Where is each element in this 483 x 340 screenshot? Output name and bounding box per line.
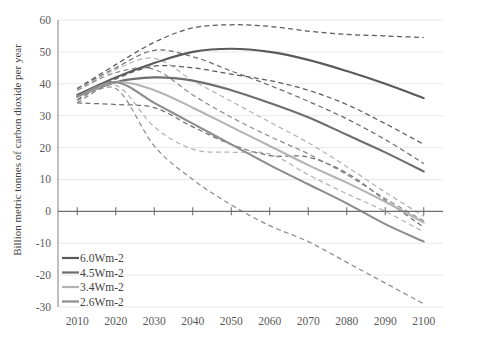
chart-container: Billion metric tonnes of carbon dioxide … (0, 0, 483, 340)
y-tick-label: -10 (36, 237, 52, 249)
legend-label: 4.5Wm-2 (80, 267, 124, 279)
x-tick-label: 2020 (104, 315, 127, 327)
chart-legend: 6.0Wm-24.5Wm-23.4Wm-22.6Wm-2 (62, 252, 124, 308)
x-tick-label: 2080 (335, 315, 358, 327)
y-axis-ticks: 6050403020100-10-20-30 (36, 14, 52, 313)
series-line (77, 85, 424, 232)
x-tick-label: 2070 (297, 315, 320, 327)
y-tick-label: 60 (40, 14, 52, 26)
y-tick-label: 30 (40, 110, 52, 122)
series-group (77, 25, 424, 304)
x-tick-label: 2030 (143, 315, 166, 327)
y-tick-label: 40 (40, 78, 52, 90)
x-tick-label: 2010 (66, 315, 89, 327)
series-line (77, 68, 424, 221)
y-tick-label: 20 (40, 142, 52, 154)
series-line (77, 82, 424, 242)
x-tick-label: 2040 (181, 315, 204, 327)
y-tick-label: 10 (40, 173, 52, 185)
legend-label: 2.6Wm-2 (80, 296, 124, 308)
legend-label: 3.4Wm-2 (80, 281, 124, 293)
series-line (77, 77, 424, 171)
y-tick-label: -30 (36, 301, 52, 313)
legend-label: 6.0Wm-2 (80, 252, 124, 264)
y-tick-label: -20 (36, 269, 52, 281)
x-tick-label: 2050 (220, 315, 243, 327)
chart-plot-area: 2010202020302040205020602070208020902100… (0, 0, 483, 340)
x-tick-label: 2060 (258, 315, 281, 327)
x-tick-label: 2090 (374, 315, 397, 327)
series-line (77, 103, 424, 227)
y-tick-label: 50 (40, 46, 52, 58)
x-tick-label: 2100 (412, 315, 435, 327)
y-tick-label: 0 (45, 205, 51, 217)
